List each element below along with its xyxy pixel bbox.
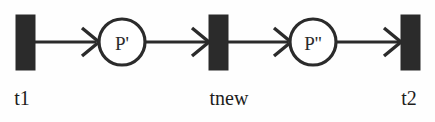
transition-bar-t1[interactable] <box>16 15 35 70</box>
transition-label-t2: t2 <box>401 87 417 109</box>
petri-net-diagram: P' P'' t1 tnew t2 <box>0 0 435 122</box>
transition-label-t1: t1 <box>14 87 30 109</box>
arc-t1-to-p-prime <box>35 28 99 56</box>
arc-p-double-prime-to-t2 <box>336 28 401 56</box>
transition-bar-t2[interactable] <box>401 15 420 70</box>
place-label-p-double-prime: P'' <box>304 33 321 54</box>
transition-label-tnew: tnew <box>210 87 249 109</box>
petri-net-canvas: P' P'' t1 tnew t2 <box>0 0 435 122</box>
arc-tnew-to-p-double-prime <box>228 28 291 56</box>
transition-bar-tnew[interactable] <box>209 15 228 70</box>
place-label-p-prime: P' <box>115 33 129 54</box>
arc-p-prime-to-tnew <box>145 28 209 56</box>
